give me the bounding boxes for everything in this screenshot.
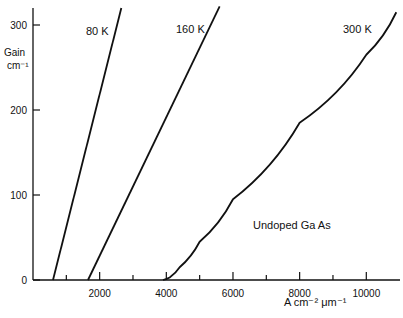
y-label-line1: Gain: [4, 47, 25, 58]
svg-text:100: 100: [10, 190, 27, 201]
y-label-line2: cm⁻¹: [7, 60, 29, 71]
series-label-300k: 300 K: [343, 23, 372, 35]
svg-text:0: 0: [21, 275, 27, 286]
series-line: [53, 8, 121, 280]
svg-text:10000: 10000: [352, 288, 380, 299]
x-axis-label: A cm⁻² μm⁻¹: [284, 296, 347, 308]
series-line: [88, 6, 220, 280]
annotation: Undoped Ga As: [253, 219, 331, 231]
series-label-80k: 80 K: [86, 25, 109, 37]
gain-chart: 0100200300 200040006000800010000 Gain cm…: [0, 0, 403, 318]
series-lines: [53, 6, 396, 280]
svg-text:2000: 2000: [89, 288, 112, 299]
series-label-160k: 160 K: [176, 23, 205, 35]
x-ticks: 200040006000800010000: [66, 272, 380, 299]
svg-text:200: 200: [10, 105, 27, 116]
svg-text:6000: 6000: [222, 288, 245, 299]
svg-text:4000: 4000: [155, 288, 178, 299]
svg-text:300: 300: [10, 20, 27, 31]
